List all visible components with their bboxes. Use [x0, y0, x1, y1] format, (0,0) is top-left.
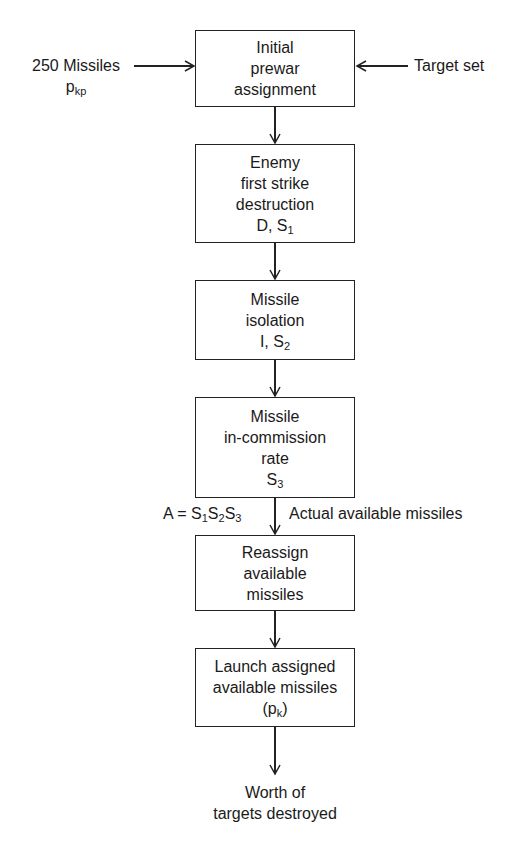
box-enemy-first-strike: Enemy first strike destruction D, S1 [195, 144, 355, 243]
box-line: Launch assigned [215, 656, 336, 677]
box-line: destruction [236, 194, 314, 215]
output-line: targets destroyed [195, 803, 355, 824]
box-line: assignment [234, 79, 316, 100]
box-line: missiles [247, 584, 304, 605]
box-line: prewar [251, 58, 300, 79]
missiles-count: 250 Missiles [23, 55, 129, 76]
box-line: in-commission [224, 427, 326, 448]
box-line: rate [261, 448, 289, 469]
box-variable: D, S1 [256, 215, 293, 236]
box-line: Enemy [250, 152, 300, 173]
box-line: available [243, 563, 306, 584]
box-missile-isolation: Missile isolation I, S2 [195, 280, 355, 360]
box-line: Reassign [242, 542, 309, 563]
box-line: isolation [246, 310, 305, 331]
box-line: Missile [251, 289, 300, 310]
output-line: Worth of [195, 782, 355, 803]
box-initial-prewar-assignment: Initial prewar assignment [195, 30, 355, 107]
box-variable: (pk) [262, 698, 287, 719]
box-variable: I, S2 [260, 331, 290, 352]
input-target-set-label: Target set [414, 55, 484, 76]
output-worth-label: Worth of targets destroyed [195, 782, 355, 824]
box-launch-missiles: Launch assigned available missiles (pk) [195, 648, 355, 727]
box-in-commission-rate: Missile in-commission rate S3 [195, 397, 355, 498]
actual-available-label: Actual available missiles [289, 503, 462, 524]
availability-formula: A = S1S2S3 [163, 503, 241, 524]
box-line: first strike [241, 173, 309, 194]
pkp-variable: pkp [23, 76, 129, 97]
box-line: available missiles [213, 677, 338, 698]
input-missiles-label: 250 Missiles pkp [23, 55, 129, 97]
box-line: Missile [251, 406, 300, 427]
box-reassign-missiles: Reassign available missiles [195, 535, 355, 611]
box-variable: S3 [267, 469, 284, 490]
box-line: Initial [256, 37, 293, 58]
